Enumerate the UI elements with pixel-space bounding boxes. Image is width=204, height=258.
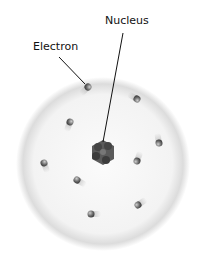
nucleus-label: Nucleus [105,14,149,27]
electron [88,211,102,218]
electron-leader-line [59,57,85,84]
atom-diagram [0,0,204,258]
electron-label: Electron [33,40,78,53]
